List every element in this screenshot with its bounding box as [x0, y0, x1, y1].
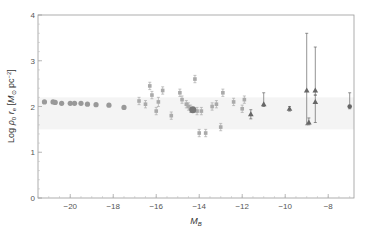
data-point — [137, 99, 141, 103]
x-tick-label: −12 — [235, 202, 249, 211]
data-point — [200, 109, 204, 113]
data-point — [304, 87, 310, 92]
scatter-chart: −20−18−16−14−12−10−801234 MB Log ρ0 re [… — [0, 0, 373, 233]
data-point — [221, 91, 225, 95]
y-tick-label: 4 — [31, 11, 36, 20]
data-point — [72, 101, 77, 106]
x-tick-label: −8 — [324, 202, 334, 211]
data-point — [154, 109, 158, 113]
data-point — [193, 77, 197, 81]
data-point — [85, 102, 90, 107]
y-tick-label: 1 — [31, 148, 36, 157]
data-point — [53, 100, 58, 105]
data-point — [157, 100, 161, 104]
data-point — [106, 103, 111, 108]
data-point — [93, 102, 98, 107]
data-point — [59, 101, 64, 106]
data-point — [347, 104, 352, 109]
x-tick-label: −18 — [106, 202, 120, 211]
data-point — [161, 89, 165, 93]
x-tick-label: −20 — [63, 202, 77, 211]
data-point — [178, 91, 182, 95]
data-point — [189, 106, 196, 113]
y-axis-label: Log ρ0 re [M⊙ pc−2] — [6, 69, 17, 143]
data-point — [204, 131, 208, 135]
data-point — [144, 102, 148, 106]
data-point — [210, 105, 214, 109]
y-tick-label: 3 — [31, 57, 36, 66]
data-point — [219, 125, 223, 129]
data-point — [313, 87, 319, 92]
data-point — [150, 93, 154, 97]
y-tick-label: 2 — [31, 103, 36, 112]
x-tick-label: −14 — [192, 202, 206, 211]
data-point — [240, 107, 244, 111]
data-point — [232, 100, 236, 104]
data-point — [78, 101, 83, 106]
data-point — [243, 98, 247, 102]
data-point — [148, 84, 152, 88]
x-axis-label: MB — [190, 216, 202, 227]
data-point — [197, 131, 201, 135]
data-point — [215, 102, 219, 106]
y-tick-label: 0 — [31, 194, 36, 203]
data-point — [169, 114, 173, 118]
x-tick-label: −10 — [278, 202, 292, 211]
data-point — [180, 98, 184, 102]
x-tick-label: −16 — [149, 202, 163, 211]
data-point — [42, 99, 47, 104]
data-point — [121, 105, 126, 110]
